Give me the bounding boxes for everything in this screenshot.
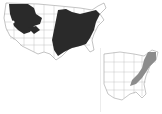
us-range-map-inset bbox=[100, 48, 162, 112]
eastern-us-map-svg bbox=[100, 48, 162, 112]
range-gap bbox=[11, 20, 14, 23]
us-map-svg bbox=[0, 0, 110, 64]
us-range-map-main bbox=[0, 0, 110, 64]
